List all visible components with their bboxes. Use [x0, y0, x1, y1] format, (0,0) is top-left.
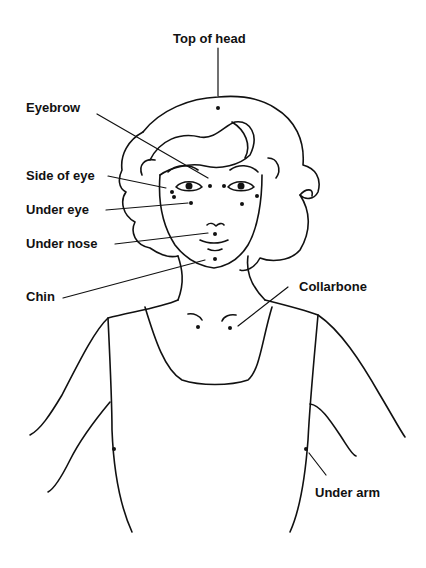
label-top-of-head: Top of head [173, 32, 246, 45]
left-arm-inner [48, 402, 110, 492]
mouth [200, 240, 228, 243]
face-outline [160, 175, 262, 268]
label-collarbone: Collarbone [299, 280, 367, 293]
label-eyebrow: Eyebrow [26, 101, 80, 114]
label-chin: Chin [26, 290, 55, 303]
tapping-points [112, 106, 308, 451]
tank-right-strap [290, 315, 318, 532]
label-under-arm: Under arm [315, 486, 380, 499]
label-under-nose: Under nose [26, 237, 98, 250]
left-shoulder [30, 300, 178, 435]
nose [207, 223, 224, 226]
label-under-eye: Under eye [26, 203, 89, 216]
tank-left-strap [108, 318, 132, 532]
right-arm-inner [310, 404, 356, 456]
label-side-of-eye: Side of eye [26, 169, 95, 182]
right-eyebrow [230, 166, 258, 172]
neckline [145, 307, 272, 385]
neck-left [178, 256, 182, 300]
hair-curl [150, 122, 254, 175]
right-shoulder [265, 300, 405, 437]
